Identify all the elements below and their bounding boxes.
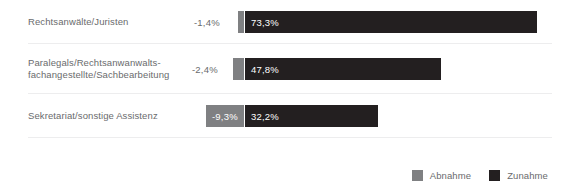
row-bars: -9,3% 32,2% bbox=[200, 105, 562, 127]
decrease-value-label: -1,4% bbox=[194, 11, 220, 33]
chart-rows: Rechtsanwälte/Juristen -1,4% 73,3% Paral… bbox=[0, 0, 562, 138]
decrease-bar[interactable] bbox=[233, 58, 244, 80]
increase-value-label: 47,8% bbox=[245, 64, 279, 75]
increase-bar[interactable]: 47,8% bbox=[245, 58, 441, 80]
row-category-label: Rechtsanwälte/Juristen bbox=[28, 16, 200, 29]
row-category-label: Sekretariat/sonstige Assistenz bbox=[28, 110, 200, 123]
chart-legend: Abnahme Zunahme bbox=[412, 170, 548, 181]
diverging-bar-chart: Rechtsanwälte/Juristen -1,4% 73,3% Paral… bbox=[0, 0, 562, 195]
legend-label: Zunahme bbox=[507, 170, 548, 181]
chart-row: Sekretariat/sonstige Assistenz -9,3% 32,… bbox=[0, 94, 562, 138]
increase-value-label: 73,3% bbox=[245, 17, 279, 28]
chart-row: Rechtsanwälte/Juristen -1,4% 73,3% bbox=[0, 0, 562, 44]
row-bars: -2,4% 47,8% bbox=[200, 58, 562, 80]
increase-bar[interactable]: 73,3% bbox=[245, 11, 537, 33]
row-category-label: Paralegals/Rechtsanwanwalts- fachangeste… bbox=[28, 57, 200, 82]
legend-swatch-icon bbox=[412, 170, 423, 181]
legend-label: Abnahme bbox=[430, 170, 471, 181]
decrease-value-label: -2,4% bbox=[192, 58, 218, 80]
decrease-bar[interactable]: -9,3% bbox=[206, 105, 244, 127]
legend-item-abnahme[interactable]: Abnahme bbox=[412, 170, 471, 181]
decrease-value-label: -9,3% bbox=[206, 111, 238, 122]
increase-value-label: 32,2% bbox=[245, 111, 279, 122]
row-separator bbox=[28, 137, 552, 138]
legend-swatch-icon bbox=[489, 170, 500, 181]
legend-item-zunahme[interactable]: Zunahme bbox=[489, 170, 548, 181]
row-bars: -1,4% 73,3% bbox=[200, 11, 562, 33]
increase-bar[interactable]: 32,2% bbox=[245, 105, 378, 127]
decrease-bar[interactable] bbox=[238, 11, 244, 33]
chart-row: Paralegals/Rechtsanwanwalts- fachangeste… bbox=[0, 44, 562, 94]
